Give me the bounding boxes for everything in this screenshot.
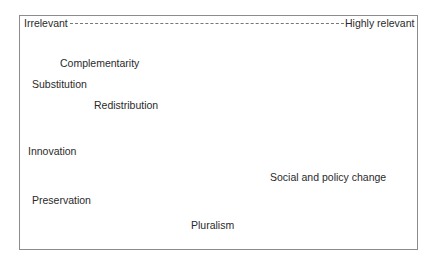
item-redistribution: Redistribution <box>94 100 158 111</box>
item-innovation: Innovation <box>28 146 76 157</box>
relevance-axis-dashed-line <box>70 23 349 24</box>
item-social-and-policy-change: Social and policy change <box>270 172 386 183</box>
item-preservation: Preservation <box>32 195 91 206</box>
item-complementarity: Complementarity <box>60 58 139 69</box>
scale-left-label: Irrelevant <box>24 18 68 29</box>
diagram-frame <box>19 15 418 250</box>
scale-right-label: Highly relevant <box>345 18 414 29</box>
item-substitution: Substitution <box>32 79 87 90</box>
item-pluralism: Pluralism <box>191 220 234 231</box>
